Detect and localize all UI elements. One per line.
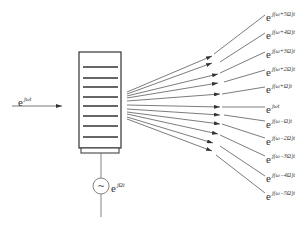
- output-label-minus5: ej(ω−5Ω)t: [266, 186, 295, 204]
- output-rays: [127, 15, 265, 193]
- output-label-minus1: ej(ω−Ω)t: [266, 114, 292, 132]
- modulator-diagram: ~: [0, 0, 307, 225]
- modulation-signal-label: ejΩt: [111, 178, 125, 196]
- output-label-plus4: ej(ω+4Ω)t: [266, 25, 295, 43]
- output-label-plus1: ej(ω+Ω)t: [266, 79, 292, 97]
- output-label-plus3: ej(ω+3Ω)t: [266, 44, 295, 62]
- output-label-minus3: ej(ω−3Ω)t: [266, 149, 295, 167]
- output-label-minus4: ej(ω−4Ω)t: [266, 168, 295, 186]
- output-label-plus5: ej(ω+5Ω)t: [266, 7, 295, 25]
- input-signal-label: ejωt: [18, 92, 31, 110]
- modulator-block: [79, 52, 121, 153]
- tilde-icon: ~: [97, 181, 105, 191]
- output-label-plus2: ej(ω+2Ω)t: [266, 62, 295, 80]
- output-label-minus2: ej(ω−2Ω)t: [266, 131, 295, 149]
